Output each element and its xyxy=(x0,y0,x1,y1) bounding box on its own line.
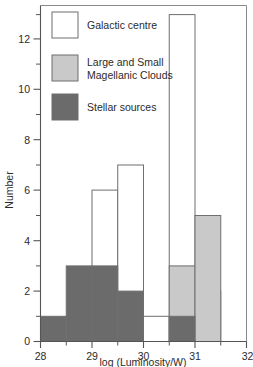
y-axis-title: Number xyxy=(3,171,15,209)
legend-label-stellar-sources: Stellar sources xyxy=(87,101,156,113)
y-tick-label-6: 6 xyxy=(24,184,30,196)
y-axis: 0 2 4 6 8 10 12 Number xyxy=(3,6,41,348)
y-tick-label-2: 2 xyxy=(24,285,30,297)
x-axis-title: log (Luminosity/W) xyxy=(100,356,187,367)
bar-stellar-29.0 xyxy=(92,266,118,342)
legend-label-galactic-centre: Galactic centre xyxy=(87,19,157,31)
bar-stellar-28.5 xyxy=(66,266,92,342)
x-tick-label-31: 31 xyxy=(189,350,201,362)
bar-magellanic-31.0 xyxy=(195,216,221,342)
chart-legend: Galactic centre Large and Small Magellan… xyxy=(52,12,173,120)
bar-galactic-30.0 xyxy=(144,316,170,341)
y-tick-label-0: 0 xyxy=(24,335,30,347)
legend-swatch-galactic-centre xyxy=(52,12,78,38)
legend-label-magellanic-line1: Large and Small xyxy=(87,56,163,68)
bar-stellar-29.5 xyxy=(118,291,144,341)
y-tick-label-4: 4 xyxy=(24,235,30,247)
x-tick-label-32: 32 xyxy=(242,350,253,362)
x-tick-label-28: 28 xyxy=(35,350,47,362)
legend-label-magellanic-line2: Magellanic Clouds xyxy=(87,69,173,81)
x-tick-label-29: 29 xyxy=(86,350,98,362)
legend-swatch-stellar-sources xyxy=(52,94,78,120)
bar-stellar-30.5 xyxy=(169,316,195,341)
histogram-figure: 0 2 4 6 8 10 12 Number 28 29 xyxy=(0,0,253,367)
bar-stellar-28.0 xyxy=(41,316,67,341)
y-tick-label-12: 12 xyxy=(18,33,30,45)
y-tick-label-10: 10 xyxy=(18,83,30,95)
chart-svg: 0 2 4 6 8 10 12 Number 28 29 xyxy=(0,0,253,367)
y-tick-label-8: 8 xyxy=(24,134,30,146)
legend-swatch-magellanic-clouds xyxy=(52,55,78,81)
